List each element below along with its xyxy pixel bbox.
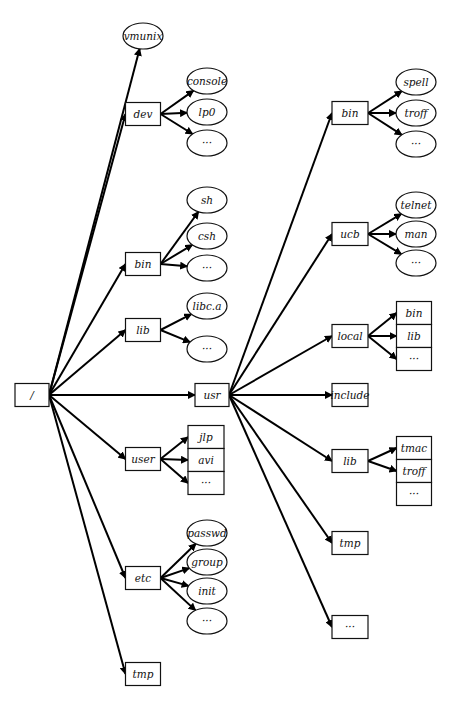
node-label: etc <box>135 572 151 584</box>
edge-bin-to-bin-more <box>161 264 188 266</box>
node-label: passwd <box>187 527 227 539</box>
node-label: lib <box>407 330 421 342</box>
edge-user-to-user-more <box>161 459 189 483</box>
edge-root-to-dev <box>49 114 126 395</box>
edge-lib-to-lib-libca <box>161 314 192 330</box>
edge-root-to-user <box>49 395 126 459</box>
node-bin-csh[interactable]: csh <box>187 223 227 249</box>
node-label: tmp <box>133 668 154 680</box>
node-usr-local[interactable]: local <box>332 325 368 348</box>
filesystem-tree-diagram: /vmunixdevconsolelp0···binshcsh···liblib… <box>0 0 454 702</box>
node-user-avi[interactable]: avi <box>188 449 224 472</box>
node-label: csh <box>198 230 216 242</box>
node-label: ··· <box>202 343 212 355</box>
node-dev-more[interactable]: ··· <box>187 130 227 156</box>
node-label: troff <box>405 107 430 119</box>
node-usr-more[interactable]: ··· <box>332 616 368 639</box>
edge-root-to-lib <box>49 330 126 395</box>
node-label: libc.a <box>193 300 222 312</box>
node-label: lib <box>343 455 357 467</box>
node-label: bin <box>135 258 152 270</box>
node-usr-bin-spell[interactable]: spell <box>396 69 436 95</box>
node-lib-libca[interactable]: libc.a <box>187 293 227 319</box>
node-label: group <box>191 556 223 568</box>
node-label: dev <box>134 108 153 120</box>
edge-usr-to-usr-tmp <box>229 395 332 543</box>
node-bin[interactable]: bin <box>126 253 161 276</box>
node-label: vmunix <box>124 30 163 42</box>
node-label: ··· <box>411 257 421 269</box>
edge-root-to-etc <box>49 395 126 578</box>
node-usr-bin-more[interactable]: ··· <box>396 131 436 157</box>
node-etc-group[interactable]: group <box>187 549 227 575</box>
node-label: user <box>131 453 155 465</box>
node-label: console <box>187 75 227 87</box>
node-usr-bin-troff[interactable]: troff <box>396 100 436 126</box>
node-label: troff <box>403 465 428 477</box>
node-tmp[interactable]: tmp <box>126 663 161 686</box>
edge-usr-lib-to-usr-lib-tmac <box>368 448 397 461</box>
edge-usr-to-usr-ucb <box>229 234 332 395</box>
node-label: ··· <box>202 615 212 627</box>
node-user-more[interactable]: ··· <box>188 472 224 495</box>
node-label: ··· <box>202 262 212 274</box>
node-label: ucb <box>340 228 360 240</box>
node-label: ··· <box>409 488 419 500</box>
node-label: jlp <box>197 431 213 443</box>
node-lib-more[interactable]: ··· <box>187 336 227 362</box>
node-root[interactable]: / <box>15 384 49 407</box>
node-usr-tmp[interactable]: tmp <box>332 532 368 555</box>
node-usr-bin[interactable]: bin <box>332 102 368 125</box>
node-dev-console[interactable]: console <box>187 68 227 94</box>
edge-bin-to-bin-csh <box>161 245 193 264</box>
node-label: ··· <box>202 137 212 149</box>
node-etc-passwd[interactable]: passwd <box>187 520 227 546</box>
node-label: ··· <box>201 477 211 489</box>
node-usr-ucb-more[interactable]: ··· <box>396 250 436 276</box>
node-dev-lp0[interactable]: lp0 <box>187 99 227 125</box>
edge-usr-lib-to-usr-lib-troff <box>368 461 397 471</box>
node-usr-ucb[interactable]: ucb <box>332 223 368 246</box>
node-usr-ucb-man[interactable]: man <box>396 221 436 247</box>
node-usr-local-bin[interactable]: bin <box>397 302 432 325</box>
edge-user-to-user-jlp <box>161 437 189 459</box>
node-label: man <box>405 228 428 240</box>
node-lib[interactable]: lib <box>126 319 161 342</box>
node-vmunix[interactable]: vmunix <box>123 23 163 49</box>
node-etc-init[interactable]: init <box>187 578 227 604</box>
edge-user-to-user-avi <box>161 459 189 460</box>
edge-root-to-tmp <box>49 395 126 674</box>
node-usr-include[interactable]: include <box>330 384 369 407</box>
node-usr[interactable]: usr <box>195 384 229 407</box>
node-label: telnet <box>401 199 433 211</box>
edge-usr-local-to-usr-local-bin <box>368 313 397 336</box>
node-usr-ucb-telnet[interactable]: telnet <box>396 192 436 218</box>
node-label: lib <box>136 324 150 336</box>
node-label: local <box>337 330 362 342</box>
node-usr-lib-tmac[interactable]: tmac <box>397 437 432 460</box>
edge-usr-local-to-usr-local-more <box>368 336 397 359</box>
edge-usr-to-usr-local <box>229 336 332 395</box>
node-bin-sh[interactable]: sh <box>187 187 227 213</box>
node-user[interactable]: user <box>126 448 161 471</box>
node-etc[interactable]: etc <box>126 567 161 590</box>
node-label: ··· <box>409 353 419 365</box>
node-label: ··· <box>345 621 355 633</box>
edge-dev-to-dev-more <box>161 114 193 134</box>
node-usr-lib[interactable]: lib <box>332 450 368 473</box>
node-usr-lib-troff[interactable]: troff <box>397 460 432 483</box>
node-label: avi <box>198 454 214 466</box>
node-usr-local-lib[interactable]: lib <box>397 325 432 348</box>
node-label: lp0 <box>199 106 216 118</box>
node-label: tmac <box>401 442 427 454</box>
node-dev[interactable]: dev <box>126 103 161 126</box>
node-bin-more[interactable]: ··· <box>187 255 227 281</box>
node-usr-lib-more[interactable]: ··· <box>397 483 432 506</box>
edge-dev-to-dev-lp0 <box>161 113 188 114</box>
node-label: init <box>198 585 216 597</box>
edge-usr-to-usr-bin <box>229 113 332 395</box>
node-usr-local-more[interactable]: ··· <box>397 348 432 371</box>
nodes-layer: /vmunixdevconsolelp0···binshcsh···liblib… <box>15 23 436 686</box>
node-user-jlp[interactable]: jlp <box>188 426 224 449</box>
node-etc-more[interactable]: ··· <box>187 608 227 634</box>
